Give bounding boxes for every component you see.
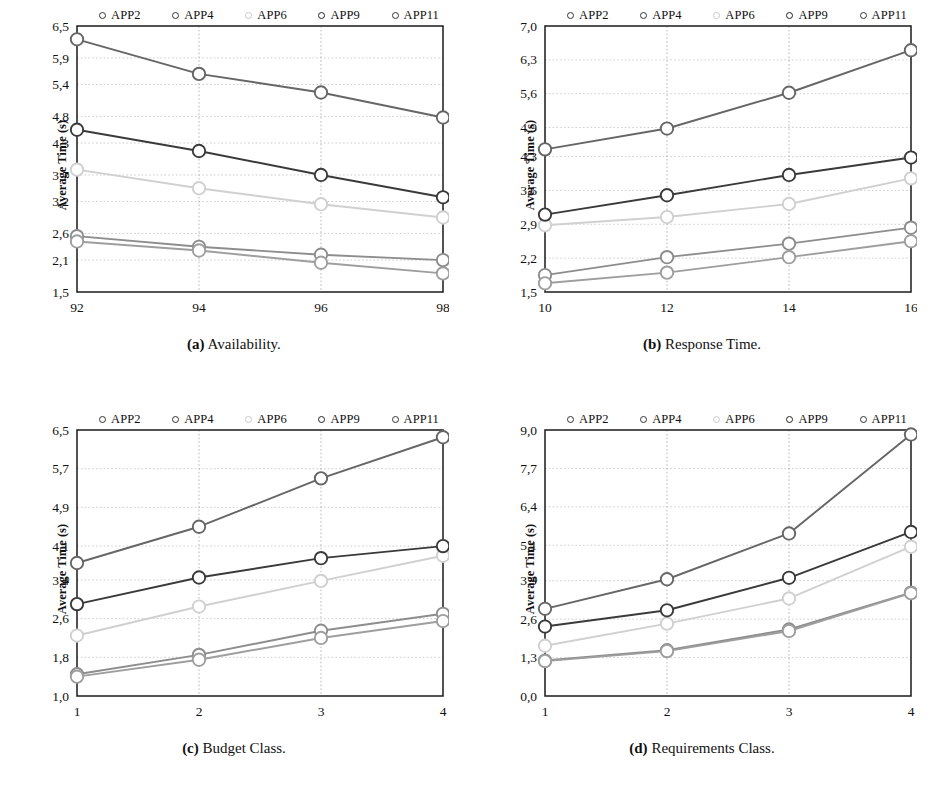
plot-svg-b: 1,52,22,93,64,34,95,66,37,010121416: [487, 0, 917, 330]
data-point-marker: [193, 244, 205, 256]
y-tick-label: 6,5: [52, 423, 69, 438]
x-tick-label: 1: [74, 704, 81, 719]
y-tick-label: 2,9: [520, 217, 537, 232]
x-tick-label: 3: [786, 704, 793, 719]
series-line-app4: [545, 241, 911, 283]
y-tick-label: 4,9: [520, 120, 537, 135]
y-tick-label: 3,2: [52, 194, 69, 209]
caption-tag: (b): [643, 336, 661, 352]
x-tick-label: 94: [192, 300, 206, 315]
data-point-marker: [905, 151, 917, 163]
data-point-marker: [661, 645, 673, 657]
x-tick-label: 10: [538, 300, 552, 315]
data-point-marker: [661, 122, 673, 134]
y-tick-label: 2,6: [52, 226, 69, 241]
y-tick-label: 5,4: [52, 77, 69, 92]
series-line-app11: [77, 39, 443, 117]
y-tick-label: 5,6: [520, 86, 537, 101]
y-tick-label: 4,1: [52, 539, 69, 554]
y-tick-label: 1,5: [52, 285, 69, 300]
y-tick-label: 6,5: [52, 19, 69, 34]
data-point-marker: [71, 670, 83, 682]
y-tick-label: 4,3: [520, 149, 537, 164]
data-point-marker: [905, 44, 917, 56]
y-tick-label: 5,7: [52, 461, 69, 476]
data-point-marker: [71, 163, 83, 175]
data-point-marker: [661, 604, 673, 616]
y-tick-label: 5,9: [52, 51, 69, 66]
data-point-marker: [71, 235, 83, 247]
data-point-marker: [315, 632, 327, 644]
data-point-marker: [661, 617, 673, 629]
data-point-marker: [193, 521, 205, 533]
series-line-app4: [545, 593, 911, 661]
chart-d: Average Time (s) APP2 APP4 APP6 APP9 APP…: [487, 404, 917, 734]
series-line-app11: [77, 437, 443, 563]
figure-grid: Average Time (s) APP2 APP4 APP6 APP9 APP…: [0, 0, 936, 808]
series-line-app9: [77, 546, 443, 604]
data-point-marker: [315, 86, 327, 98]
y-tick-label: 4,9: [52, 500, 69, 515]
y-tick-label: 2,1: [52, 253, 69, 268]
data-point-marker: [437, 267, 449, 279]
y-tick-label: 2,6: [520, 612, 537, 627]
y-tick-label: 1,0: [52, 689, 69, 704]
x-tick-label: 1: [542, 704, 549, 719]
data-point-marker: [437, 540, 449, 552]
data-point-marker: [193, 571, 205, 583]
data-point-marker: [905, 221, 917, 233]
series-line-app2: [545, 593, 911, 661]
caption-c: (c) Budget Class.: [182, 740, 286, 757]
data-point-marker: [783, 87, 795, 99]
y-tick-label: 4,3: [52, 136, 69, 151]
panel-c: Average Time (s) APP2 APP4 APP6 APP9 APP…: [0, 404, 468, 808]
data-point-marker: [315, 472, 327, 484]
data-point-marker: [905, 526, 917, 538]
chart-c: Average Time (s) APP2 APP4 APP6 APP9 APP…: [19, 404, 449, 734]
data-point-marker: [539, 143, 551, 155]
y-tick-label: 3,6: [520, 183, 537, 198]
data-point-marker: [783, 169, 795, 181]
data-point-marker: [315, 257, 327, 269]
series-line-app11: [545, 50, 911, 149]
y-tick-label: 3,7: [52, 168, 69, 183]
x-tick-label: 16: [904, 300, 917, 315]
data-point-marker: [437, 211, 449, 223]
data-point-marker: [905, 428, 917, 440]
data-point-marker: [905, 235, 917, 247]
data-point-marker: [315, 198, 327, 210]
y-tick-label: 7,7: [520, 461, 537, 476]
data-point-marker: [783, 527, 795, 539]
x-tick-label: 2: [196, 704, 203, 719]
x-tick-label: 3: [318, 704, 325, 719]
x-tick-label: 98: [436, 300, 449, 315]
data-point-marker: [539, 603, 551, 615]
data-point-marker: [315, 552, 327, 564]
data-point-marker: [783, 572, 795, 584]
series-line-app9: [545, 532, 911, 627]
plot-svg-a: 1,52,12,63,23,74,34,85,45,96,592949698: [19, 0, 449, 330]
data-point-marker: [661, 266, 673, 278]
y-tick-label: 2,2: [520, 251, 537, 266]
data-point-marker: [783, 625, 795, 637]
y-tick-label: 6,3: [520, 52, 537, 67]
data-point-marker: [437, 191, 449, 203]
series-line-app11: [545, 434, 911, 608]
series-line-app6: [77, 170, 443, 218]
caption-text: Availability.: [208, 336, 281, 352]
x-tick-label: 4: [440, 704, 447, 719]
data-point-marker: [315, 575, 327, 587]
x-tick-label: 96: [314, 300, 328, 315]
data-point-marker: [71, 124, 83, 136]
data-point-marker: [905, 172, 917, 184]
panel-d: Average Time (s) APP2 APP4 APP6 APP9 APP…: [468, 404, 936, 808]
y-tick-label: 3,4: [52, 573, 69, 588]
y-tick-label: 7,0: [520, 19, 537, 34]
data-point-marker: [661, 211, 673, 223]
series-line-app9: [545, 158, 911, 215]
data-point-marker: [783, 251, 795, 263]
plot-svg-d: 0,01,32,63,95,16,47,79,01234: [487, 404, 917, 734]
data-point-marker: [315, 169, 327, 181]
y-tick-label: 5,1: [520, 538, 537, 553]
data-point-marker: [437, 254, 449, 266]
